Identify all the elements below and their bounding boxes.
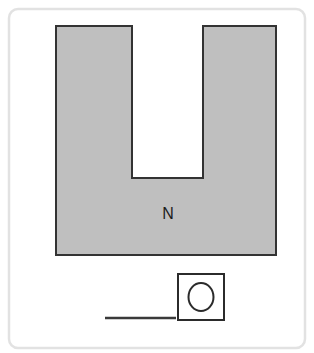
- square-outline: [178, 274, 224, 320]
- figure-container: N: [0, 0, 314, 353]
- magnet-pole-label: N: [162, 205, 174, 222]
- diagram-canvas: N: [0, 0, 314, 353]
